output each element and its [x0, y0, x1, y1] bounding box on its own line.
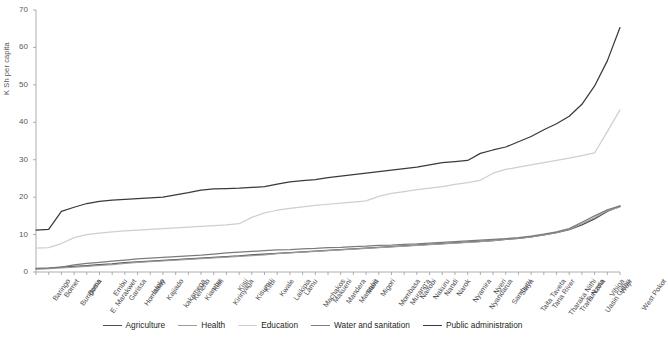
series-line-agriculture	[36, 206, 620, 269]
legend-label: Agriculture	[126, 321, 166, 329]
legend-swatch-icon	[423, 325, 442, 326]
chart-legend: AgricultureHealthEducationWater and sani…	[0, 321, 625, 329]
series-line-education	[36, 110, 620, 248]
legend-item-water-and-sanitation[interactable]: Water and sanitation	[311, 321, 410, 329]
legend-item-education[interactable]: Education	[238, 321, 298, 329]
x-axis-tick-label: West Pokot	[640, 277, 668, 312]
y-axis-tick-label: 0	[6, 267, 28, 276]
y-axis-tick-label: 10	[6, 230, 28, 239]
legend-swatch-icon	[178, 325, 197, 326]
legend-label: Water and sanitation	[334, 321, 410, 329]
legend-item-public-administration[interactable]: Public administration	[423, 321, 523, 329]
series-line-public-administration	[36, 28, 620, 230]
legend-swatch-icon	[238, 325, 257, 326]
legend-swatch-icon	[311, 325, 330, 326]
legend-item-health[interactable]: Health	[178, 321, 225, 329]
y-axis-tick-label: 20	[6, 192, 28, 201]
y-axis-tick-label: 70	[6, 5, 28, 14]
y-axis-tick-label: 40	[6, 117, 28, 126]
legend-item-agriculture[interactable]: Agriculture	[103, 321, 166, 329]
y-axis-tick-label: 50	[6, 80, 28, 89]
legend-label: Public administration	[446, 321, 523, 329]
legend-swatch-icon	[103, 325, 122, 326]
y-axis-tick-label: 30	[6, 155, 28, 164]
legend-label: Health	[201, 321, 225, 329]
legend-label: Education	[261, 321, 298, 329]
y-axis-tick-label: 60	[6, 42, 28, 51]
